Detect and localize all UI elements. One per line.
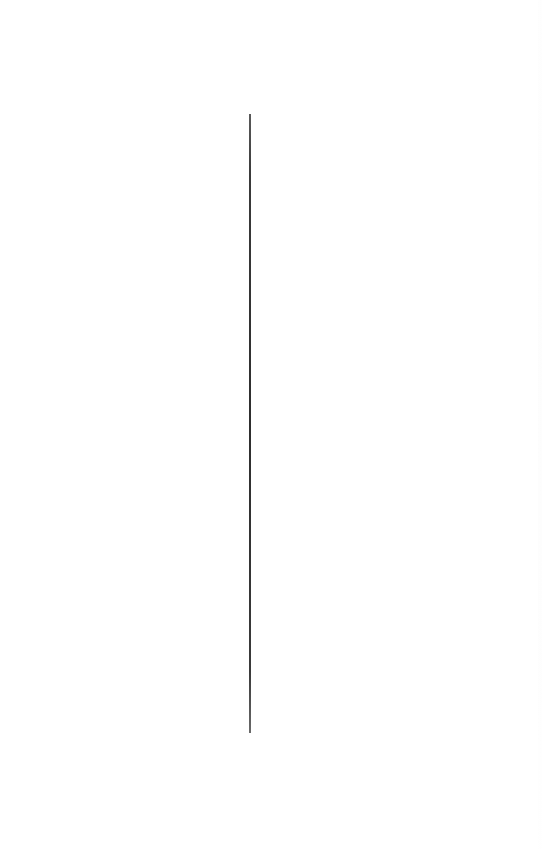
blank-canvas: [0, 0, 542, 849]
right-edge-artifact: [538, 0, 542, 849]
vertical-divider-line: [249, 114, 251, 733]
